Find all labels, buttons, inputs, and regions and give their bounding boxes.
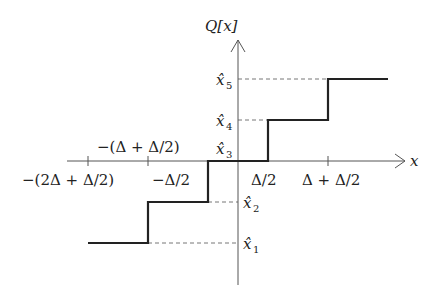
y-axis-label: Q[x] [205, 17, 238, 35]
svg-text:x̂: x̂ [216, 112, 225, 130]
level-label-x5: x̂ 5 [216, 71, 232, 91]
x-axis-label: x [410, 152, 419, 170]
svg-text:2: 2 [253, 203, 259, 214]
level-label-x2: x̂ 2 [243, 194, 259, 214]
svg-text:5: 5 [226, 80, 232, 91]
svg-text:3: 3 [226, 149, 232, 160]
tick-label-t1: −(2Δ + Δ/2) [22, 171, 114, 189]
svg-text:x̂: x̂ [243, 194, 252, 212]
tick-label-t3: −Δ/2 [152, 171, 190, 189]
svg-text:x̂: x̂ [216, 71, 225, 89]
level-label-x3: x̂ 3 [216, 140, 232, 160]
quantizer-diagram: Q[x] x −(2Δ + Δ/2) −(Δ + Δ/2) −Δ/2 Δ/2 Δ… [0, 0, 441, 300]
level-label-x4: x̂ 4 [216, 112, 232, 132]
tick-label-t4: Δ/2 [251, 171, 276, 189]
svg-text:4: 4 [226, 121, 232, 132]
svg-text:x̂: x̂ [243, 235, 252, 253]
svg-text:x̂: x̂ [216, 140, 225, 158]
svg-text:1: 1 [253, 244, 259, 255]
level-label-x1: x̂ 1 [243, 235, 259, 255]
tick-label-t5: Δ + Δ/2 [302, 171, 360, 189]
axes [67, 40, 405, 285]
tick-label-t2: −(Δ + Δ/2) [97, 138, 180, 156]
